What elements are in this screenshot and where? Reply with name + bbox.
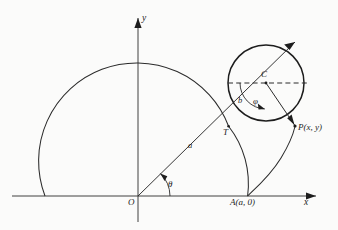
epicycloid-curve (248, 127, 296, 197)
point-marker-C (265, 82, 268, 85)
x-axis-label: x (304, 198, 308, 208)
y-axis-arrowhead (134, 18, 141, 28)
y-axis-label: y (142, 14, 146, 24)
angle-phi-label: φ (253, 97, 258, 106)
base-circle-arc (39, 63, 229, 196)
x-axis (12, 192, 316, 199)
tangency-point-label: T (223, 128, 228, 137)
circle-center-label: C (261, 70, 267, 79)
base-circle-arc-lower (229, 126, 249, 196)
tracing-point-label: P(x, y) (298, 123, 322, 132)
theta-arrowhead (160, 173, 167, 181)
angle-theta-label: θ (168, 180, 172, 189)
point-marker-P (293, 124, 296, 127)
ray-from-origin (138, 42, 295, 196)
origin-label: O (128, 198, 135, 207)
point-a-label: A(a, 0) (230, 198, 255, 207)
segment-b-label: b (238, 96, 242, 105)
ray-arrowhead (284, 42, 295, 50)
segment-a-label: a (188, 141, 192, 150)
diagram-svg (0, 0, 338, 230)
y-axis (134, 18, 141, 222)
figure-canvas: x y O A(a, 0) T C P(x, y) a b θ φ (0, 0, 338, 230)
phi-arrowhead (258, 103, 265, 109)
